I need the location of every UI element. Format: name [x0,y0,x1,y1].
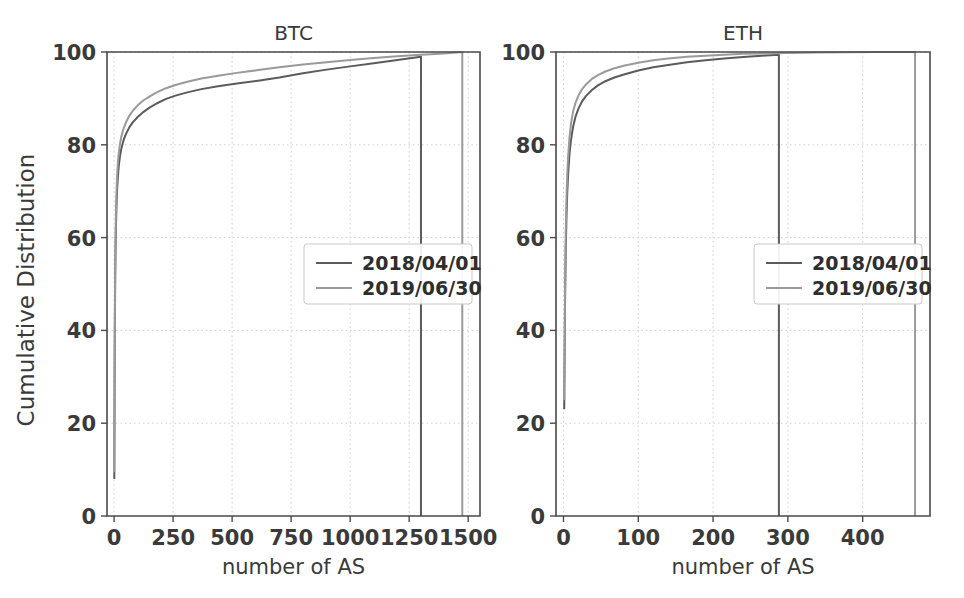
y-tick-label: 20 [67,412,96,436]
x-tick-label: 750 [269,526,313,550]
x-tick-label: 200 [691,526,735,550]
legend[interactable]: 2018/04/012019/06/30 [304,244,482,304]
x-tick-label: 500 [210,526,254,550]
legend[interactable]: 2018/04/012019/06/30 [754,244,932,304]
x-axis-label: number of AS [671,555,814,579]
x-tick-label: 250 [151,526,195,550]
x-tick-label: 0 [107,526,122,550]
legend-entry-label: 2019/06/30 [812,277,932,299]
y-tick-label: 100 [501,41,545,65]
x-tick-label: 300 [766,526,810,550]
x-tick-label: 1500 [439,526,497,550]
x-tick-label: 100 [616,526,660,550]
y-tick-label: 60 [516,227,545,251]
y-tick-label: 80 [67,134,96,158]
legend-entry-label: 2018/04/01 [362,252,482,274]
y-tick-label: 0 [81,505,96,529]
y-tick-label: 0 [530,505,545,529]
x-tick-label: 1000 [321,526,379,550]
cdf-figure: Cumulative Distribution 0204060801000250… [0,0,964,598]
legend-entry-label: 2018/04/01 [812,252,932,274]
panel-title: BTC [274,21,313,45]
y-tick-label: 100 [52,41,96,65]
panel-title: ETH [723,21,763,45]
x-tick-label: 0 [556,526,571,550]
figure-container: Cumulative Distribution 0204060801000250… [0,0,964,598]
y-tick-label: 60 [67,227,96,251]
y-axis-label: Cumulative Distribution [13,154,39,427]
y-tick-label: 20 [516,412,545,436]
x-tick-label: 1250 [380,526,438,550]
x-tick-label: 400 [841,526,885,550]
legend-entry-label: 2019/06/30 [362,277,482,299]
y-tick-label: 40 [67,319,96,343]
x-axis-label: number of AS [222,555,365,579]
y-tick-label: 80 [516,134,545,158]
y-tick-label: 40 [516,319,545,343]
